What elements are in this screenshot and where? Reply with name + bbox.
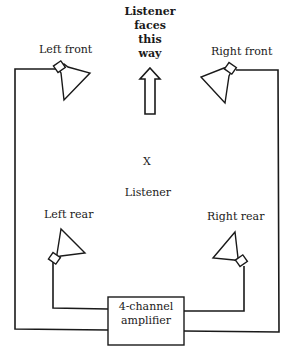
wire-right-rear [184, 266, 244, 311]
amplifier-label: 4-channel amplifier [108, 300, 184, 328]
listener-label: Listener [120, 186, 176, 199]
listener-marker: X [140, 155, 154, 168]
right-rear-label: Right rear [207, 210, 264, 223]
facing-line-1: Listener [120, 5, 180, 19]
left-rear-label: Left rear [44, 208, 93, 221]
facing-direction-label: Listener faces this way [120, 5, 180, 61]
amplifier-line-2: amplifier [108, 314, 184, 328]
right-front-speaker-icon [201, 62, 236, 103]
wire-left-front [15, 69, 108, 330]
left-front-label: Left front [39, 43, 92, 56]
facing-line-2: faces [120, 19, 180, 33]
arrow-up-icon [140, 68, 160, 114]
right-rear-speaker-icon [213, 232, 247, 267]
wire-right-front [184, 70, 279, 332]
facing-line-3: this [120, 33, 180, 47]
right-front-label: Right front [211, 45, 272, 58]
amplifier-line-1: 4-channel [108, 300, 184, 314]
left-rear-speaker-icon [48, 229, 85, 264]
wire-left-rear [53, 262, 108, 309]
facing-line-4: way [120, 47, 180, 61]
left-front-speaker-icon [53, 61, 90, 100]
